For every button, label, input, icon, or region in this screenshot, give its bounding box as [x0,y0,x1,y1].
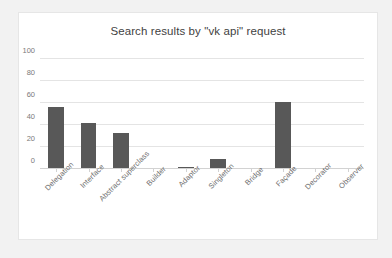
bar-slot [72,59,104,169]
y-axis-tick-label: 40 [27,112,35,121]
bar-series [40,59,364,169]
bar-slot [170,59,202,169]
y-axis-tick-label: 20 [27,134,35,143]
chart-card: Search results by "vk api" request 02040… [18,12,378,240]
x-label-slot: Decorator [299,171,331,237]
bar[interactable] [275,102,291,169]
bar-slot [267,59,299,169]
x-label-slot: Builder [137,171,169,237]
x-label-slot: Façade [267,171,299,237]
x-label-slot: Bridge [234,171,266,237]
x-axis-labels: DelegationInterfaceAbstract superclassBu… [40,171,364,237]
bar-slot [40,59,72,169]
x-label-slot: Interface [72,171,104,237]
bar[interactable] [48,107,64,169]
x-axis-line [40,168,364,169]
x-label-slot: Adaptor [170,171,202,237]
bar[interactable] [81,123,97,169]
x-label-slot: Abstract superclass [105,171,137,237]
x-label-slot: Observer [332,171,364,237]
x-label-slot: Delegation [40,171,72,237]
bar-slot [202,59,234,169]
bar-slot [234,59,266,169]
x-label-slot: Singleton [202,171,234,237]
chart-title: Search results by "vk api" request [19,25,377,37]
y-axis-tick-label: 0 [31,156,35,165]
y-axis-tick-label: 60 [27,90,35,99]
y-axis-tick-label: 80 [27,68,35,77]
bar[interactable] [113,133,129,169]
plot-area: 020406080100 [40,59,364,169]
bar-slot [332,59,364,169]
y-axis-tick-label: 100 [22,46,35,55]
bar-slot [105,59,137,169]
bar-slot [299,59,331,169]
